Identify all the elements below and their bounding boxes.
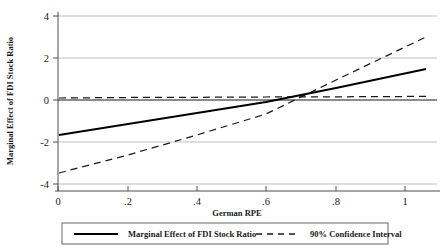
- x-tick-label-0: 0: [55, 196, 60, 207]
- x-tick-label-1: 1: [402, 196, 407, 207]
- x-tick-label-0-2: .2: [124, 196, 132, 207]
- x-tick-label-0-6: .6: [262, 196, 270, 207]
- y-tick-label-neg2: -2: [40, 137, 49, 148]
- y-tick-label-0: 0: [44, 95, 49, 106]
- x-tick-label-0-8: .8: [332, 196, 340, 207]
- y-tick-label-2: 2: [44, 53, 49, 64]
- y-tick-label-neg4: -4: [40, 179, 49, 190]
- y-tick-label-4: 4: [44, 11, 50, 22]
- x-tick-label-0-4: .4: [193, 196, 202, 207]
- y-axis-title: Marginal Effect of FDI Stock Ratio: [5, 37, 15, 165]
- legend-label-marginal-effect: Marginal Effect of FDI Stock Ratio: [128, 229, 256, 239]
- legend-label-confidence-interval: 90% Confidence Interval: [310, 229, 402, 239]
- chart-figure: 4 2 0 -2 -4 0 .2 .4 .6 .8 1 German RPE M…: [0, 0, 444, 249]
- x-axis-title: German RPE: [212, 208, 262, 218]
- chart-legend: Marginal Effect of FDI Stock Ratio 90% C…: [62, 223, 402, 244]
- marginal-effect-line-chart: 4 2 0 -2 -4 0 .2 .4 .6 .8 1 German RPE M…: [0, 0, 444, 249]
